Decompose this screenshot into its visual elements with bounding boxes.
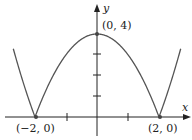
peak-point — [95, 32, 99, 36]
left-root-point — [34, 115, 38, 119]
x-axis-label: x — [182, 102, 188, 113]
y-axis-arrow-icon — [94, 4, 100, 12]
right-root-label: (2, 0) — [148, 123, 178, 134]
right-root-point — [158, 115, 162, 119]
graph-canvas — [0, 0, 192, 140]
peak-label: (0, 4) — [102, 20, 132, 31]
y-axis-label: y — [103, 3, 109, 14]
x-axis-arrow-icon — [183, 114, 191, 120]
left-root-label: (−2, 0) — [16, 123, 55, 134]
